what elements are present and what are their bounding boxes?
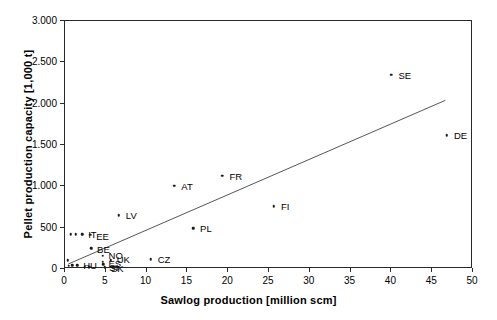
data-point-label-fr: FR [229,170,242,181]
trendline [65,21,473,269]
x-tick-label: 15 [181,275,192,286]
x-tick-mark [431,268,432,272]
data-point-ee[interactable] [89,233,92,236]
data-point-pl[interactable] [192,227,195,230]
x-tick-label: 25 [262,275,273,286]
data-point-label-se: SE [398,69,411,80]
data-point-fi[interactable] [273,205,276,208]
x-tick-mark [146,268,147,272]
plot-area: SEDEFRATFILVPLITEEBENOCZESUKSISKHU [64,20,472,268]
data-point[interactable] [69,233,72,236]
scatter-chart-figure: Pellet production capacity [1,000 t] Saw… [0,0,497,320]
data-point-de[interactable] [446,134,449,137]
x-tick-label: 40 [385,275,396,286]
data-point[interactable] [71,264,74,267]
x-tick-label: 30 [303,275,314,286]
x-tick-label: 5 [102,275,108,286]
data-point-fr[interactable] [221,174,224,177]
y-tick-label: 2.500 [32,56,57,67]
data-point-label-at: AT [181,180,192,191]
x-tick-label: 20 [222,275,233,286]
x-tick-mark [472,268,473,272]
y-tick-label: 2.000 [32,97,57,108]
data-point-label-fi: FI [281,201,289,212]
x-tick-label: 50 [466,275,477,286]
data-point[interactable] [74,233,77,236]
data-point[interactable] [67,259,70,262]
data-point-hu[interactable] [76,264,79,267]
y-tick-label: 500 [40,221,57,232]
data-point-se[interactable] [390,73,393,76]
data-point-at[interactable] [173,184,176,187]
data-point-sk[interactable] [104,266,107,269]
data-point[interactable] [88,266,91,269]
x-axis-label: Sawlog production [million scm] [0,294,497,306]
data-point-be[interactable] [90,247,93,250]
x-tick-mark [186,268,187,272]
data-point-label-ee: EE [96,230,109,241]
y-tick-label: 3.000 [32,15,57,26]
x-tick-mark [350,268,351,272]
x-tick-mark [64,268,65,272]
x-tick-mark [227,268,228,272]
y-tick-label: 1.000 [32,180,57,191]
data-point-no[interactable] [101,255,104,258]
data-point-label-lv: LV [126,210,137,221]
x-tick-label: 35 [344,275,355,286]
x-tick-label: 0 [61,275,67,286]
data-point-label-pl: PL [200,223,212,234]
data-point-it[interactable] [81,233,84,236]
y-tick-label: 1.500 [32,139,57,150]
data-point-label-de: DE [454,130,467,141]
data-point-lv[interactable] [118,214,121,217]
x-tick-mark [105,268,106,272]
x-tick-mark [390,268,391,272]
x-tick-mark [268,268,269,272]
x-tick-label: 10 [140,275,151,286]
x-tick-label: 45 [426,275,437,286]
y-tick-label: 0 [51,263,57,274]
data-point-label-cz: CZ [158,254,171,265]
x-tick-mark [309,268,310,272]
data-point-cz[interactable] [149,258,152,261]
data-point[interactable] [67,264,70,267]
data-point[interactable] [83,265,86,268]
data-point-label-sk: SK [111,263,124,274]
